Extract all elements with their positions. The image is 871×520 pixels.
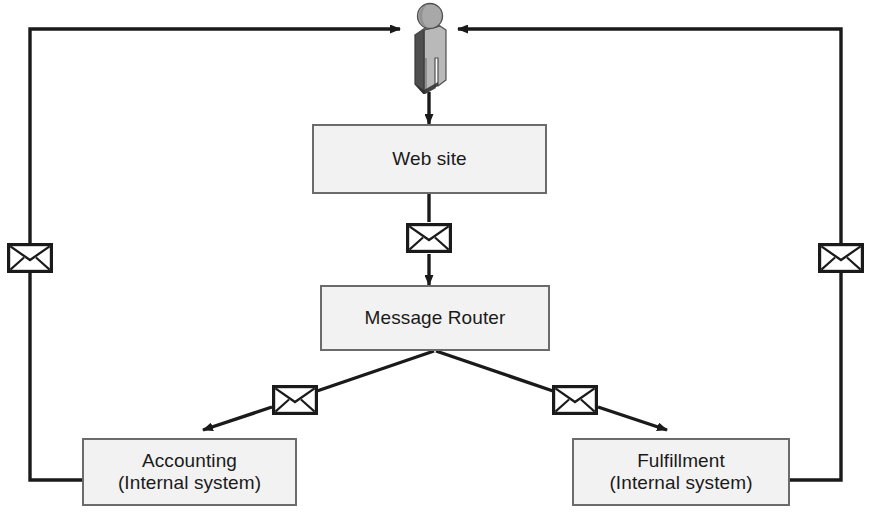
- diagram-canvas: Web site Message Router Accounting (Inte…: [0, 0, 871, 520]
- envelope-icon-website-to-router: [406, 223, 452, 253]
- node-message-router[interactable]: Message Router: [320, 285, 550, 351]
- node-fulfillment[interactable]: Fulfillment (Internal system): [572, 438, 790, 506]
- envelope-icon-fulfillment-to-actor: [818, 243, 864, 273]
- node-fulfillment-label: Fulfillment: [637, 450, 725, 472]
- connector-accounting-to-actor: [30, 29, 400, 480]
- envelope-icon-router-to-accounting: [272, 385, 318, 415]
- connector-fulfillment-to-actor: [458, 29, 841, 480]
- envelope-icon-router-to-fulfillment: [552, 385, 598, 415]
- node-accounting-label: Accounting: [142, 450, 237, 472]
- envelope-icon-accounting-to-actor: [7, 243, 53, 273]
- node-accounting-sublabel: (Internal system): [118, 472, 261, 494]
- connector-router-to-accounting: [203, 351, 434, 430]
- node-website-label: Web site: [392, 148, 466, 170]
- node-fulfillment-sublabel: (Internal system): [609, 472, 752, 494]
- node-accounting[interactable]: Accounting (Internal system): [82, 438, 297, 506]
- node-website[interactable]: Web site: [312, 124, 547, 194]
- node-message-router-label: Message Router: [365, 307, 506, 329]
- customer-actor: [402, 2, 458, 94]
